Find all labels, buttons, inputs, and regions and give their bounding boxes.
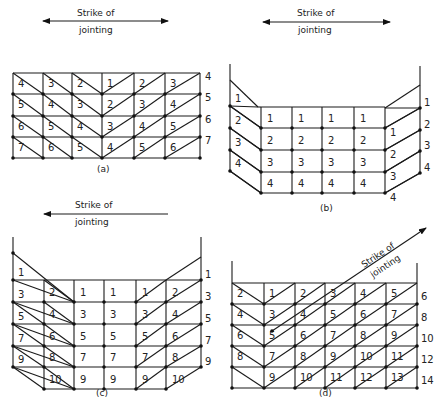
node-dot — [293, 344, 297, 348]
node-dot — [228, 148, 232, 152]
cell-label: 3 — [360, 157, 366, 168]
grid-a: 4321234543234565434567654567 — [11, 71, 211, 160]
jointing-diagrams-figure: Strike of jointing 432123454323456543456… — [0, 0, 438, 411]
cell-label: 9 — [330, 351, 336, 362]
node-dot — [198, 92, 202, 96]
node-dot — [418, 128, 422, 132]
joint-diagonal — [13, 367, 44, 389]
cell-label: 4 — [139, 121, 145, 132]
cell-label: 9 — [142, 374, 148, 385]
node-dot — [293, 386, 297, 390]
node-dot — [102, 344, 106, 348]
cell-label: 2 — [107, 99, 113, 110]
node-dot — [42, 300, 46, 304]
cell-label: 7 — [391, 309, 397, 320]
node-dot — [134, 344, 138, 348]
cell-label: 3 — [269, 309, 275, 320]
node-dot — [353, 344, 357, 348]
cell-label: 4 — [49, 309, 55, 320]
cell-label: 1 — [107, 78, 113, 89]
node-dot — [72, 322, 76, 326]
cell-label: 2 — [77, 78, 83, 89]
cell-label: 4 — [360, 178, 366, 189]
node-dot — [198, 114, 202, 118]
cell-label: 5 — [77, 142, 83, 153]
strike-arrow-c: Strike of jointing — [44, 200, 168, 227]
node-dot — [293, 323, 297, 327]
grid-c: 1211121343334356555657877787910999109 — [11, 237, 211, 391]
node-dot — [262, 344, 266, 348]
node-dot — [384, 365, 388, 369]
cell-label: 5 — [18, 99, 24, 110]
node-dot — [132, 135, 136, 139]
cell-label: 5 — [142, 331, 148, 342]
cell-label: 13 — [391, 372, 404, 383]
joint-diagonal — [136, 280, 166, 302]
diagonal-arrow-icon — [272, 228, 426, 331]
node-dot — [228, 126, 232, 130]
node-dot — [42, 365, 46, 369]
cell-label: 3 — [77, 99, 83, 110]
cell-label: 5 — [391, 288, 397, 299]
node-dot — [100, 135, 104, 139]
node-dot — [230, 386, 234, 390]
joint-diagonal — [136, 367, 166, 389]
cell-label: 7 — [110, 352, 116, 363]
cell-label: 5 — [205, 92, 211, 103]
node-dot — [290, 126, 294, 130]
node-dot — [228, 104, 232, 108]
node-dot — [259, 191, 263, 195]
node-dot — [70, 92, 74, 96]
cell-label: 14 — [421, 375, 434, 386]
cell-label: 4 — [424, 162, 430, 173]
cell-label: 12 — [421, 354, 434, 365]
node-dot — [383, 126, 387, 130]
node-dot — [259, 170, 263, 174]
cell-label: 6 — [237, 330, 243, 341]
panel-c: Strike of jointing 121112134333435655565… — [11, 200, 211, 398]
cell-label: 3 — [107, 121, 113, 132]
node-dot — [230, 344, 234, 348]
cell-label: 3 — [139, 99, 145, 110]
row-line — [385, 108, 420, 128]
node-dot — [293, 302, 297, 306]
cell-label: 4 — [172, 309, 178, 320]
node-dot — [72, 344, 76, 348]
cell-label: 5 — [139, 142, 145, 153]
node-dot — [320, 170, 324, 174]
node-dot — [262, 365, 266, 369]
cell-label: 6 — [360, 309, 366, 320]
cell-label: 3 — [170, 78, 176, 89]
cell-label: 1 — [424, 97, 430, 108]
node-dot — [352, 148, 356, 152]
cell-label: 7 — [205, 135, 211, 146]
joint-diagonal — [136, 346, 166, 367]
cell-label: 1 — [235, 93, 241, 104]
node-dot — [102, 365, 106, 369]
node-dot — [102, 322, 106, 326]
node-dot — [415, 386, 419, 390]
cell-label: 5 — [205, 313, 211, 324]
node-dot — [72, 387, 76, 391]
node-dot — [70, 135, 74, 139]
cell-label: 4 — [235, 158, 241, 169]
cell-label: 4 — [390, 192, 396, 203]
cell-label: 4 — [205, 71, 211, 82]
cell-label: 7 — [142, 352, 148, 363]
cell-label: 7 — [269, 351, 275, 362]
node-dot — [11, 365, 15, 369]
grid-d: 2123456434567865678910878910111291011121… — [230, 261, 434, 390]
cell-label: 5 — [170, 121, 176, 132]
cell-label: 1 — [80, 287, 86, 298]
node-dot — [290, 170, 294, 174]
node-dot — [72, 365, 76, 369]
strike-arrow-b: Strike of jointing — [263, 8, 390, 35]
node-dot — [353, 386, 357, 390]
joint-diagonal — [232, 367, 264, 388]
node-dot — [164, 365, 168, 369]
cell-label: 9 — [80, 374, 86, 385]
cell-label: 2 — [267, 135, 273, 146]
cell-label: 1 — [142, 287, 148, 298]
node-dot — [199, 365, 203, 369]
cell-label: 2 — [235, 115, 241, 126]
